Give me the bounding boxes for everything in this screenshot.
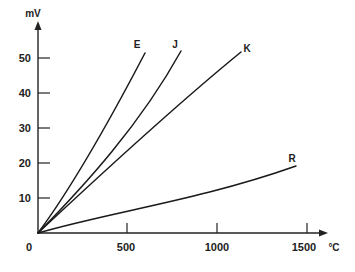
y-tick-label: 50 [19, 52, 31, 64]
y-tick-label: 40 [19, 87, 31, 99]
y-tick-label: 30 [19, 122, 31, 134]
x-ticks [127, 223, 307, 233]
x-tick-label: 1500 [292, 241, 316, 253]
y-axis-unit: mV [25, 8, 41, 19]
y-axis-arrow-icon [35, 21, 42, 30]
origin-label: 0 [26, 241, 32, 253]
curve-label-j: J [172, 39, 178, 50]
x-tick-label: 1000 [205, 241, 229, 253]
y-tick-label: 10 [19, 192, 31, 204]
y-ticks [38, 58, 50, 198]
x-tick-label: 500 [117, 241, 135, 253]
x-axis-arrow-icon [319, 230, 328, 237]
curve-label-r: R [288, 153, 296, 164]
y-tick-label: 20 [19, 157, 31, 169]
x-axis-unit: °C [328, 242, 339, 253]
curve-k [38, 52, 241, 233]
curve-e [38, 53, 145, 233]
thermocouple-voltage-chart: 10 20 30 40 50 0 500 1000 1500 mV °C E J… [0, 0, 355, 272]
curve-label-k: K [243, 43, 251, 54]
x-axis [38, 230, 328, 237]
y-axis [35, 21, 42, 233]
curve-j [38, 51, 181, 233]
curve-label-e: E [134, 39, 141, 50]
